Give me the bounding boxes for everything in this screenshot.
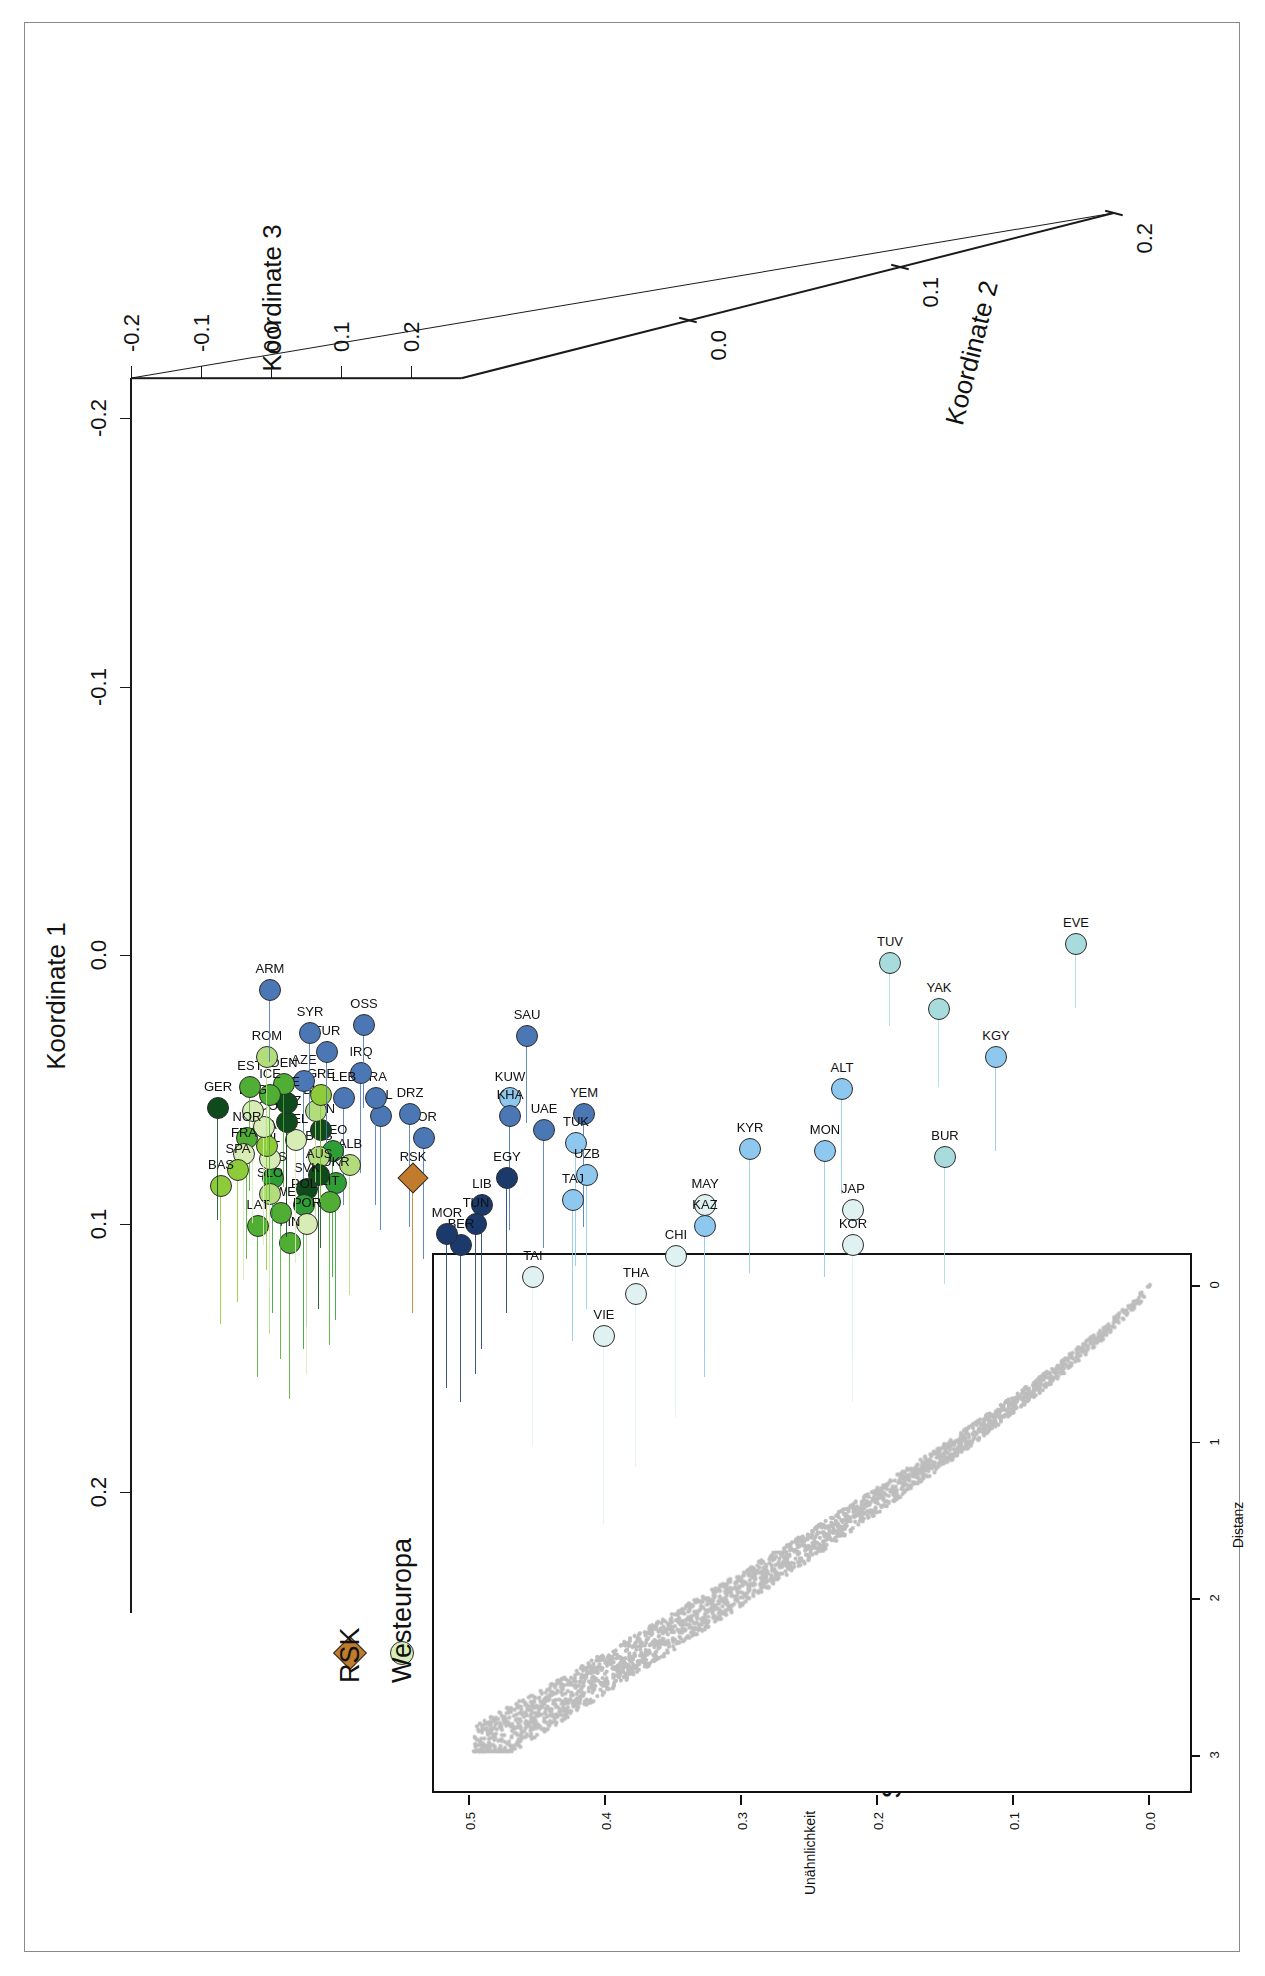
inset-axis-tick-label: 0.4 <box>599 1812 614 1830</box>
data-point-label: KYR <box>737 1119 764 1134</box>
data-point-label: SVK <box>294 1159 320 1174</box>
inset-axis-tick <box>740 1795 742 1805</box>
data-point[interactable] <box>316 1041 338 1063</box>
point-connector-line <box>532 1277 533 1445</box>
point-connector-line <box>475 1224 476 1374</box>
data-point[interactable] <box>522 1266 544 1288</box>
data-point-label: OSS <box>351 996 378 1011</box>
z-axis-tick <box>411 366 412 378</box>
data-point-label: GER <box>204 1079 232 1094</box>
data-point[interactable] <box>353 1014 375 1036</box>
data-point-label: ALT <box>830 1060 853 1075</box>
data-point-label: TUN <box>462 1194 489 1209</box>
data-point[interactable] <box>516 1025 538 1047</box>
data-point-label: YEM <box>570 1084 598 1099</box>
point-connector-line <box>572 1200 573 1342</box>
data-point-label: DRZ <box>397 1084 424 1099</box>
inset-axis-tick-label: 1 <box>1207 1438 1222 1445</box>
data-point[interactable] <box>562 1189 584 1211</box>
data-point[interactable] <box>879 952 901 974</box>
data-point[interactable] <box>496 1167 518 1189</box>
inset-axis-tick-label: 0.1 <box>1007 1812 1022 1830</box>
x-axis-tick-label: 0.2 <box>86 1477 112 1508</box>
data-point[interactable] <box>310 1084 332 1106</box>
data-point[interactable] <box>299 1022 321 1044</box>
rotated-figure-container: Koordinate 1 Koordinate 2 Koordinate 3 S… <box>42 53 1222 1923</box>
point-connector-line <box>635 1294 636 1467</box>
point-connector-line <box>360 1073 361 1173</box>
data-point[interactable] <box>694 1215 716 1237</box>
z-axis-tick-label: 0.0 <box>259 321 285 352</box>
point-connector-line <box>586 1175 587 1309</box>
data-point-label: MAY <box>691 1175 718 1190</box>
inset-axis-tick-label: 0 <box>1207 1281 1222 1288</box>
data-point[interactable] <box>625 1283 647 1305</box>
data-point-label: POR <box>293 1194 321 1209</box>
point-connector-line <box>938 1009 939 1087</box>
point-connector-line <box>995 1057 996 1151</box>
point-connector-line <box>320 1095 321 1202</box>
x-axis-tick <box>120 1492 132 1493</box>
point-connector-line <box>326 1052 327 1144</box>
data-point-label: JAP <box>841 1181 865 1196</box>
y-axis-title: Koordinate 2 <box>939 278 1005 429</box>
data-point[interactable] <box>319 1191 341 1213</box>
point-connector-line <box>257 1226 258 1377</box>
data-point[interactable] <box>239 1076 261 1098</box>
inset-axis-tick <box>604 1795 606 1805</box>
data-point[interactable] <box>256 1135 278 1157</box>
point-connector-line <box>266 1057 267 1151</box>
data-point[interactable] <box>210 1175 232 1197</box>
inset-axis-tick-label: 0.3 <box>735 1812 750 1830</box>
data-point[interactable] <box>413 1127 435 1149</box>
data-point[interactable] <box>436 1223 458 1245</box>
x-axis-tick-label: 0.1 <box>86 1208 112 1239</box>
data-point-label: TUV <box>877 934 903 949</box>
data-point[interactable] <box>934 1146 956 1168</box>
data-point[interactable] <box>365 1087 387 1109</box>
data-point[interactable] <box>333 1087 355 1109</box>
x-axis-title: Koordinate 1 <box>41 922 72 1069</box>
data-point-label: VIE <box>594 1307 615 1322</box>
data-point-label: KAZ <box>692 1197 717 1212</box>
data-point[interactable] <box>499 1105 521 1127</box>
point-connector-line <box>375 1098 376 1206</box>
point-connector-line <box>841 1089 842 1194</box>
data-point[interactable] <box>259 979 281 1001</box>
data-point[interactable] <box>1065 933 1087 955</box>
inset-dissimilarity-axis-title: Unähnlichkeit <box>802 1811 818 1895</box>
data-point-label: BUR <box>931 1127 958 1142</box>
data-point[interactable] <box>985 1046 1007 1068</box>
data-point[interactable] <box>842 1234 864 1256</box>
data-point[interactable] <box>270 1202 292 1224</box>
data-point[interactable] <box>593 1325 615 1347</box>
point-connector-line <box>332 1151 333 1277</box>
inset-axis-tick <box>1190 1598 1200 1600</box>
data-point[interactable] <box>279 1232 301 1254</box>
point-connector-line <box>237 1170 238 1302</box>
mds-scatter-plot: Koordinate 1 Koordinate 2 Koordinate 3 S… <box>42 53 1222 1923</box>
data-point[interactable] <box>256 1046 278 1068</box>
data-point[interactable] <box>285 1129 307 1151</box>
inset-axis-tick <box>876 1795 878 1805</box>
point-connector-line <box>295 1140 296 1262</box>
data-point[interactable] <box>739 1138 761 1160</box>
x-axis-tick <box>120 687 132 688</box>
data-point[interactable] <box>814 1140 836 1162</box>
inset-axis-tick <box>1190 1442 1200 1444</box>
data-point-label: LEB <box>332 1068 357 1083</box>
data-point-label: MOR <box>432 1205 462 1220</box>
data-point[interactable] <box>207 1097 229 1119</box>
z-axis-tick <box>131 366 132 378</box>
point-connector-line <box>217 1108 218 1219</box>
data-point[interactable] <box>533 1119 555 1141</box>
data-point-label: CHI <box>665 1226 687 1241</box>
z-axis-tick-label: 0.2 <box>399 321 425 352</box>
data-point[interactable] <box>399 1103 421 1125</box>
data-point[interactable] <box>831 1078 853 1100</box>
z-axis-tick-label: 0.1 <box>329 321 355 352</box>
data-point[interactable] <box>665 1245 687 1267</box>
data-point[interactable] <box>928 998 950 1020</box>
inset-axis-tick <box>1190 1285 1200 1287</box>
data-point-label: BAS <box>208 1157 234 1172</box>
